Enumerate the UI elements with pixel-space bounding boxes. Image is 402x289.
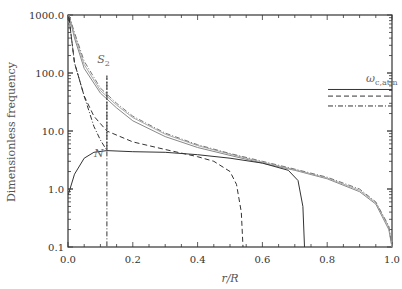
data-curves xyxy=(68,15,392,247)
annotations: S2Nωc,atm xyxy=(93,53,398,161)
annotation-label: ωc,atm xyxy=(366,72,398,87)
y-tick-label: 10.0 xyxy=(42,126,64,137)
annotation-label: N xyxy=(93,147,104,160)
frequency-chart: 0.00.20.40.60.81.00.11.010.0100.01000.0 … xyxy=(0,0,402,289)
plot-frame xyxy=(68,15,392,247)
series-line xyxy=(68,151,304,247)
y-tick-label: 1.0 xyxy=(48,184,64,195)
x-tick-label: 0.8 xyxy=(319,254,335,265)
y-tick-label: 1000.0 xyxy=(29,10,64,21)
x-tick-label: 0.6 xyxy=(254,254,270,265)
series-line xyxy=(69,15,392,247)
axis-ticks xyxy=(68,15,392,247)
plot-border xyxy=(68,15,392,247)
x-axis-label: r/R xyxy=(221,272,238,285)
series-line xyxy=(69,15,392,247)
x-tick-label: 1.0 xyxy=(384,254,400,265)
y-tick-label: 100.0 xyxy=(35,68,64,79)
axis-tick-labels: 0.00.20.40.60.81.00.11.010.0100.01000.0 xyxy=(29,10,400,265)
series-line xyxy=(69,15,392,247)
x-tick-label: 0.2 xyxy=(125,254,141,265)
annotation-label: S2 xyxy=(97,53,110,68)
x-tick-label: 0.0 xyxy=(60,254,76,265)
y-axis-label: Dimensionless frequency xyxy=(5,61,18,202)
y-tick-label: 0.1 xyxy=(48,242,64,253)
x-tick-label: 0.4 xyxy=(190,254,206,265)
legend-lines xyxy=(328,89,392,106)
